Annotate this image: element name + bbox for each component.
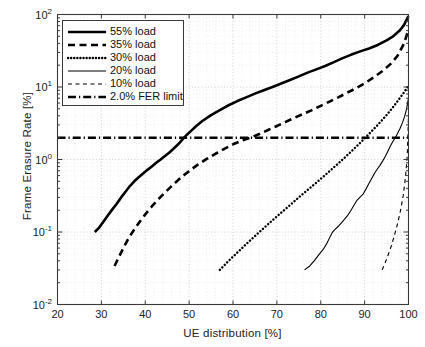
legend-line-sample xyxy=(67,76,107,89)
x-tick-label: 50 xyxy=(169,308,209,320)
legend-item: 10% load xyxy=(67,76,179,89)
x-tick-label: 30 xyxy=(81,308,121,320)
legend-item: 20% load xyxy=(67,63,179,76)
legend-label: 10% load xyxy=(107,77,156,89)
legend-line-sample xyxy=(67,24,107,37)
legend-item: 30% load xyxy=(67,50,179,63)
legend-line-sample xyxy=(67,63,107,76)
series-line-20-load xyxy=(305,98,409,270)
legend-item: 35% load xyxy=(67,37,179,50)
legend-label: 2.0% FER limit xyxy=(107,90,183,102)
series-line-30-load xyxy=(220,85,409,269)
legend-label: 35% load xyxy=(107,38,156,50)
legend-item: 55% load xyxy=(67,24,179,37)
x-tick-label: 40 xyxy=(125,308,165,320)
legend-label: 55% load xyxy=(107,25,156,37)
legend-label: 30% load xyxy=(107,51,156,63)
legend-line-sample xyxy=(67,89,107,102)
x-tick-label: 90 xyxy=(345,308,385,320)
figure-chart: Frame Erasure Rate [%] UE distribution [… xyxy=(0,0,425,347)
x-tick-label: 70 xyxy=(257,308,297,320)
legend-item: 2.0% FER limit xyxy=(67,89,179,102)
x-tick-label: 20 xyxy=(38,308,78,320)
legend: 55% load35% load30% load20% load10% load… xyxy=(62,20,184,106)
legend-line-sample xyxy=(67,50,107,63)
legend-label: 20% load xyxy=(107,64,156,76)
legend-line-sample xyxy=(67,37,107,50)
x-tick-label: 60 xyxy=(213,308,253,320)
x-tick-label: 80 xyxy=(301,308,341,320)
x-tick-label: 100 xyxy=(389,308,425,320)
